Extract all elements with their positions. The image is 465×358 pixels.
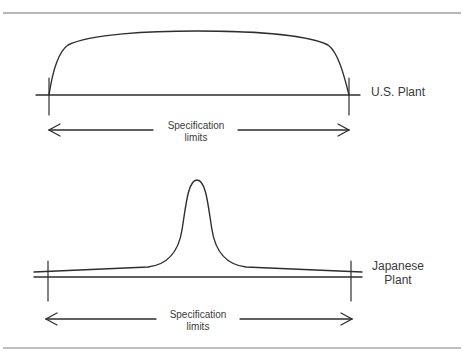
jp-spec-label-line2: limits bbox=[158, 321, 238, 333]
us-spec-label-line1: Specification bbox=[156, 120, 236, 132]
us-spec-limits-label: Specification limits bbox=[156, 120, 236, 143]
distribution-comparison-figure: U.S. Plant Specification limits Japanese… bbox=[0, 0, 465, 358]
jp-plant-label-line1: Japanese bbox=[368, 260, 428, 274]
us-spec-label-line2: limits bbox=[156, 132, 236, 144]
jp-spec-label-line1: Specification bbox=[158, 309, 238, 321]
us-plant-label-text: U.S. Plant bbox=[371, 85, 425, 99]
jp-spec-limits-label: Specification limits bbox=[158, 309, 238, 332]
japanese-plant-label: Japanese Plant bbox=[368, 260, 428, 288]
jp-plant-label-line2: Plant bbox=[368, 274, 428, 288]
japanese-plant-panel bbox=[34, 180, 362, 325]
us-plant-label: U.S. Plant bbox=[371, 86, 425, 100]
us-distribution-curve bbox=[49, 31, 349, 95]
jp-distribution-curve bbox=[34, 180, 362, 272]
